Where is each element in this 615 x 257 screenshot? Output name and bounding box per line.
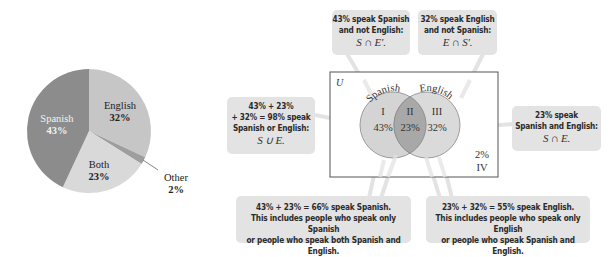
region-iii-numeral: III	[432, 106, 443, 117]
callout-text: 43% speak Spanish	[332, 14, 410, 25]
pie-label-other: Other 2%	[156, 172, 196, 196]
callout-math: S ∩ E.	[512, 132, 601, 145]
callout-intersection: 23% speak Spanish and English: S ∩ E.	[512, 106, 601, 151]
callout-text: 43% + 23%	[227, 101, 315, 112]
region-ii-value: 23%	[400, 122, 420, 133]
pie-label-english-name: English	[95, 100, 145, 112]
callout-text: Spanish or English:	[227, 123, 315, 134]
pie-label-spanish-name: Spanish	[34, 113, 80, 125]
callout-text: + 32% = 98% speak	[227, 112, 315, 123]
callout-text: 32% speak English	[418, 14, 497, 25]
pie-label-other-name: Other	[156, 172, 196, 184]
callout-math: S ∩ E′.	[332, 36, 410, 49]
region-ii-numeral: II	[407, 106, 414, 117]
region-i-numeral: I	[381, 106, 385, 117]
region-i-value: 43%	[373, 122, 393, 133]
callout-spanish-total: 43% + 23% = 66% speak Spanish. This incl…	[236, 196, 411, 243]
pie-label-english: English 32%	[95, 100, 145, 124]
pie-label-both-value: 23%	[89, 171, 110, 182]
region-iii-value: 32%	[427, 122, 447, 133]
callout-text: 23% + 32% = 55% speak English.	[426, 202, 590, 213]
pie-label-other-value: 2%	[168, 184, 184, 195]
other-leader-line	[143, 160, 158, 170]
callout-text: 23% speak	[512, 110, 601, 121]
callout-math: S ∪ E.	[227, 134, 315, 147]
region-iv-numeral: IV	[476, 162, 487, 173]
pie-label-spanish-value: 43%	[47, 125, 68, 136]
callout-text: and not Spanish:	[418, 25, 497, 36]
pie-label-spanish: Spanish 43%	[34, 113, 80, 137]
callout-math: E ∩ S′.	[418, 36, 497, 49]
universe-label: U	[336, 77, 344, 88]
callout-text: or people who speak both Spanish and Eng…	[236, 235, 411, 257]
callout-text: or people who speak Spanish and English.	[426, 235, 590, 257]
callout-english-only: 32% speak English and not Spanish: E ∩ S…	[418, 10, 497, 55]
callout-text: This includes people who speak only Engl…	[426, 213, 590, 235]
callout-spanish-only: 43% speak Spanish and not English: S ∩ E…	[332, 10, 410, 55]
pie-label-both: Both 23%	[79, 159, 119, 183]
pie-label-english-value: 32%	[110, 112, 131, 123]
callout-text: Spanish and English:	[512, 121, 601, 132]
venn-diagram: U Spanish English I 43% II 23% III 32% 2…	[330, 72, 498, 177]
callout-text: and not English:	[332, 25, 410, 36]
callout-union: 43% + 23% + 32% = 98% speak Spanish or E…	[227, 97, 315, 154]
callout-text: This includes people who speak only Span…	[236, 213, 411, 235]
callout-english-total: 23% + 32% = 55% speak English. This incl…	[426, 196, 590, 243]
callout-text: 43% + 23% = 66% speak Spanish.	[236, 202, 411, 213]
region-iv-value: 2%	[475, 149, 489, 160]
pie-label-both-name: Both	[79, 159, 119, 171]
